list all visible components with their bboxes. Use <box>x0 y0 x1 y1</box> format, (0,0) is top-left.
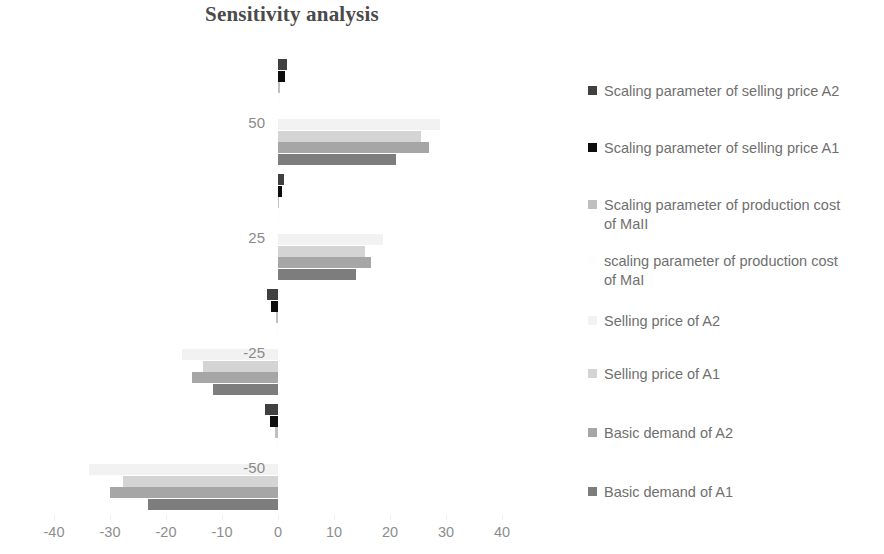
bar[interactable] <box>110 487 278 498</box>
bar[interactable] <box>278 154 396 165</box>
bar-row <box>0 301 584 312</box>
sensitivity-analysis-chart: Sensitivity analysis 5025-25-50 -40-30-2… <box>0 0 884 554</box>
bar[interactable] <box>192 372 278 383</box>
bar-row <box>0 416 584 427</box>
category-label-neg50: -50 <box>203 459 265 476</box>
bar[interactable] <box>278 59 287 70</box>
legend-item[interactable]: Basic demand of A2 <box>588 424 884 443</box>
bar-row <box>0 131 584 142</box>
category-label-50: 50 <box>203 114 265 131</box>
bar[interactable] <box>278 82 280 93</box>
x-axis: -40-30-20-10010203040 <box>0 515 584 545</box>
legend-swatch-icon <box>588 487 597 496</box>
bar[interactable] <box>276 312 278 323</box>
legend-item[interactable]: Scaling parameter of production cost of … <box>588 196 884 234</box>
legend-item-label: Scaling parameter of selling price A2 <box>604 82 839 101</box>
x-axis-tick-label: -30 <box>90 524 130 540</box>
bar-row <box>0 476 584 487</box>
bar-row <box>0 71 584 82</box>
bar-row <box>0 499 584 510</box>
x-axis-tick-mark <box>334 515 335 520</box>
x-axis-tick-label: 0 <box>258 524 298 540</box>
legend-item-label: Basic demand of A1 <box>604 483 733 502</box>
bar-row <box>0 154 584 165</box>
x-axis-tick-label: -10 <box>202 524 242 540</box>
legend-item[interactable]: scaling parameter of production cost of … <box>588 252 884 290</box>
legend-swatch-icon <box>588 143 597 152</box>
bar-row <box>0 427 584 438</box>
legend-item-label: Selling price of A1 <box>604 365 720 384</box>
x-axis-tick-label: 40 <box>482 524 522 540</box>
bar-row <box>0 94 584 105</box>
legend-swatch-icon <box>588 200 597 209</box>
legend-item[interactable]: Selling price of A1 <box>588 365 884 384</box>
bar[interactable] <box>278 119 440 130</box>
bar-row <box>0 384 584 395</box>
bar-row <box>0 197 584 208</box>
bar[interactable] <box>278 94 279 105</box>
bar-row <box>0 257 584 268</box>
bar[interactable] <box>278 142 429 153</box>
bar[interactable] <box>278 234 383 245</box>
legend-item-label: scaling parameter of production cost of … <box>604 252 838 290</box>
bar[interactable] <box>278 186 282 197</box>
bar-row <box>0 487 584 498</box>
bar-row <box>0 82 584 93</box>
x-axis-tick-mark <box>278 515 279 520</box>
legend-swatch-icon <box>588 428 597 437</box>
bar[interactable] <box>271 301 278 312</box>
bar[interactable] <box>278 257 371 268</box>
legend-item-label: Scaling parameter of production cost of … <box>604 196 840 234</box>
bar[interactable] <box>270 416 278 427</box>
bar[interactable] <box>277 439 278 450</box>
bar-row <box>0 439 584 450</box>
x-axis-tick-mark <box>502 515 503 520</box>
bar-row <box>0 324 584 335</box>
legend-item[interactable]: Basic demand of A1 <box>588 483 884 502</box>
bar-row <box>0 234 584 245</box>
bar-group: 50 <box>0 59 584 163</box>
legend-item-label: Scaling parameter of selling price A1 <box>604 139 839 158</box>
bar[interactable] <box>213 384 278 395</box>
bar[interactable] <box>278 209 279 220</box>
bar-row <box>0 246 584 257</box>
bar[interactable] <box>148 499 278 510</box>
bar-row <box>0 186 584 197</box>
bar-row <box>0 269 584 280</box>
x-axis-tick-label: 20 <box>370 524 410 540</box>
bar[interactable] <box>278 174 284 185</box>
x-axis-tick-label: 10 <box>314 524 354 540</box>
bar-row <box>0 119 584 130</box>
bar[interactable] <box>278 246 365 257</box>
legend-item[interactable]: Selling price of A2 <box>588 312 884 331</box>
legend-swatch-icon <box>588 316 597 325</box>
bar[interactable] <box>277 324 278 335</box>
legend-item[interactable]: Scaling parameter of selling price A1 <box>588 139 884 158</box>
bar-row <box>0 464 584 475</box>
bar-row <box>0 349 584 360</box>
bar-row <box>0 209 584 220</box>
chart-title: Sensitivity analysis <box>0 2 584 27</box>
bar[interactable] <box>203 361 278 372</box>
bar-group: -25 <box>0 289 584 393</box>
bar[interactable] <box>278 269 356 280</box>
x-axis-tick-label: 30 <box>426 524 466 540</box>
bar-group: 25 <box>0 174 584 278</box>
bar[interactable] <box>123 476 278 487</box>
x-axis-tick-mark <box>390 515 391 520</box>
category-label-25: 25 <box>203 229 265 246</box>
legend-item[interactable]: Scaling parameter of selling price A2 <box>588 82 884 101</box>
bar-row <box>0 142 584 153</box>
bar-row <box>0 289 584 300</box>
bar[interactable] <box>278 131 421 142</box>
bar[interactable] <box>267 289 278 300</box>
category-label-neg25: -25 <box>203 344 265 361</box>
bar[interactable] <box>275 427 278 438</box>
bar-row <box>0 372 584 383</box>
bar-row <box>0 312 584 323</box>
bar[interactable] <box>265 404 278 415</box>
legend-item-label: Basic demand of A2 <box>604 424 733 443</box>
bar-group: -50 <box>0 404 584 508</box>
bar[interactable] <box>278 197 279 208</box>
bar[interactable] <box>278 71 285 82</box>
